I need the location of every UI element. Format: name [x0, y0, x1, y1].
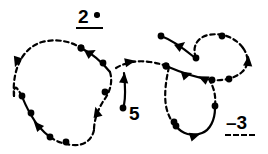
direction-arrow-icon [11, 56, 23, 69]
data-point-dot [226, 76, 233, 83]
data-point-dot [63, 139, 70, 146]
direction-arrow-icon [119, 72, 129, 83]
marker-layer [11, 33, 254, 146]
trajectory-left-loop-dashed-bottom [50, 130, 94, 145]
data-point-dot [100, 60, 107, 67]
data-point-dot [173, 123, 180, 130]
direction-arrow-icon [189, 130, 202, 142]
label-2-value: 2 [78, 7, 89, 26]
label-minus3-group: –3 [226, 113, 268, 143]
trajectory-left-loop-dashed-descend [94, 72, 111, 130]
data-point-dot [212, 103, 219, 110]
data-point-dot [102, 89, 109, 96]
data-point-dot [209, 77, 216, 84]
direction-arrow-icon [91, 106, 103, 119]
label-2-dot-icon [94, 12, 100, 18]
trajectory-right-dashed-up-from-u [210, 81, 215, 106]
figure-root: 2 5 –3 [0, 0, 268, 154]
label-2-solid-rule [76, 27, 103, 29]
label-minus3-value: –3 [226, 113, 247, 132]
trajectory-right-solid-u-bottom [176, 108, 215, 135]
direction-arrow-icon [196, 72, 209, 85]
label-5-value: 5 [129, 104, 140, 123]
trajectory-middle-dashed-bridge [116, 61, 169, 68]
data-point-dot [19, 93, 26, 100]
label-minus3-dashed-rule [225, 134, 255, 136]
label-2-group: 2 [78, 7, 118, 33]
trajectory-left-loop-dashed-upper [14, 40, 81, 96]
data-point-dot [219, 33, 226, 40]
data-point-dot [28, 110, 35, 117]
trajectory-left-loop-solid-lower-left [22, 96, 50, 137]
trajectory-right-dashed-loop-top [195, 34, 244, 58]
trajectory-right-dashed-down [165, 67, 176, 126]
direction-arrow-icon [243, 55, 253, 66]
data-point-dot [163, 63, 170, 70]
data-point-dot [158, 33, 165, 40]
trajectory-right-dashed-loop-right [212, 48, 247, 80]
data-point-dot [193, 55, 200, 62]
data-point-dot [120, 105, 127, 112]
series-layer [14, 34, 248, 145]
data-point-dot [78, 45, 85, 52]
data-point-dot [47, 134, 54, 141]
